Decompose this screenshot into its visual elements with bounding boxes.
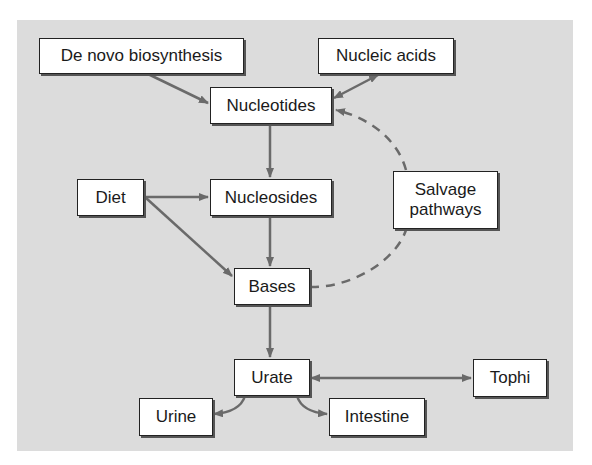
- node-intestine: Intestine: [329, 398, 425, 436]
- edge-urate-intestine: [297, 396, 327, 414]
- node-label: De novo biosynthesis: [61, 46, 223, 66]
- edge-salvage-nucleotides-dashed: [336, 110, 406, 170]
- node-de-novo-biosynthesis: De novo biosynthesis: [39, 38, 244, 74]
- node-label: Urate: [251, 368, 293, 388]
- node-diet: Diet: [77, 179, 144, 216]
- node-label: Nucleosides: [225, 188, 318, 208]
- node-salvage-pathways: Salvage pathways: [393, 171, 498, 229]
- node-nucleotides: Nucleotides: [210, 87, 332, 124]
- edge-urate-urine: [214, 396, 245, 414]
- node-nucleic-acids: Nucleic acids: [318, 38, 454, 74]
- node-bases: Bases: [234, 268, 310, 305]
- node-label-line1: Salvage: [415, 180, 476, 200]
- node-label-line2: pathways: [410, 200, 482, 220]
- node-label: Urine: [156, 407, 197, 427]
- node-urine: Urine: [139, 398, 213, 436]
- node-urate: Urate: [234, 359, 310, 396]
- node-label: Bases: [248, 277, 295, 297]
- node-label: Nucleotides: [227, 96, 316, 116]
- node-label: Tophi: [490, 368, 531, 388]
- edge-bases-salvage-dashed: [310, 230, 406, 287]
- node-label: Intestine: [345, 407, 409, 427]
- node-nucleosides: Nucleosides: [210, 179, 332, 216]
- edge-denovo-nucleotides: [148, 74, 208, 103]
- node-label: Nucleic acids: [336, 46, 436, 66]
- node-label: Diet: [95, 188, 125, 208]
- edge-nucleotides-nucleicacids: [334, 75, 378, 98]
- node-tophi: Tophi: [473, 359, 547, 397]
